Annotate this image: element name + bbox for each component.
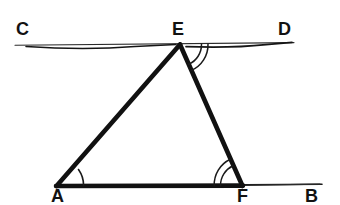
line-cd: [15, 43, 294, 46]
vertex-label-b: B: [305, 187, 318, 205]
vertex-label-e: E: [172, 20, 184, 38]
vertex-label-d: D: [278, 20, 291, 38]
line-cd-group: [15, 42, 294, 48]
side-ef: [180, 45, 243, 187]
angle-mark-a: [79, 170, 84, 186]
angle-f-arc-1: [220, 166, 233, 186]
vertex-label-c: C: [16, 20, 29, 38]
triangle-aef: [56, 45, 243, 187]
angle-f-arc-2: [214, 159, 230, 186]
geometry-figure: C E D A F B: [0, 0, 340, 205]
angle-e-arc-2: [191, 44, 208, 70]
angle-a-arc-1: [79, 170, 84, 186]
vertex-label-a: A: [51, 187, 64, 205]
side-ae: [57, 45, 181, 187]
vertex-label-f: F: [237, 187, 248, 205]
